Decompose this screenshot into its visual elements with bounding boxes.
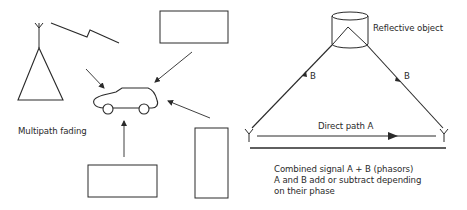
building-top-right: [160, 11, 228, 43]
path-b-incoming: [252, 44, 333, 128]
multipath-fading-caption: Multipath fading: [18, 126, 87, 137]
rx-antenna-icon: [440, 129, 448, 142]
path-b-right-label: B: [404, 71, 410, 82]
arrow-from-tower: [86, 69, 104, 88]
description-line-1: Combined signal A + B (phasors): [274, 164, 413, 175]
multipath-diagram: Multipath fading Reflective object B B D…: [0, 0, 467, 210]
building-bottom-right: [195, 128, 228, 198]
direct-path-arrow-icon: [388, 132, 398, 140]
arrow-from-right-building: [168, 101, 210, 118]
tx-antenna-icon: [245, 129, 253, 142]
reflective-object-label: Reflective object: [373, 23, 443, 34]
arrow-from-top-building: [155, 52, 192, 82]
antenna-icon: [35, 23, 43, 48]
description-line-2: A and B add or subtract depending: [274, 175, 421, 186]
tower-icon: [18, 48, 63, 100]
description-line-3: on their phase: [274, 186, 335, 197]
path-b-outgoing-arrow-icon: [395, 77, 401, 82]
building-bottom: [88, 165, 157, 197]
transmitter-tower: [18, 23, 63, 100]
car-icon: [94, 88, 158, 114]
path-b-left-label: B: [310, 71, 316, 82]
signal-zigzag-icon: [51, 23, 119, 43]
reflective-object-icon: [332, 12, 368, 48]
direct-path-label: Direct path A: [318, 121, 373, 132]
path-b-outgoing: [366, 44, 443, 128]
